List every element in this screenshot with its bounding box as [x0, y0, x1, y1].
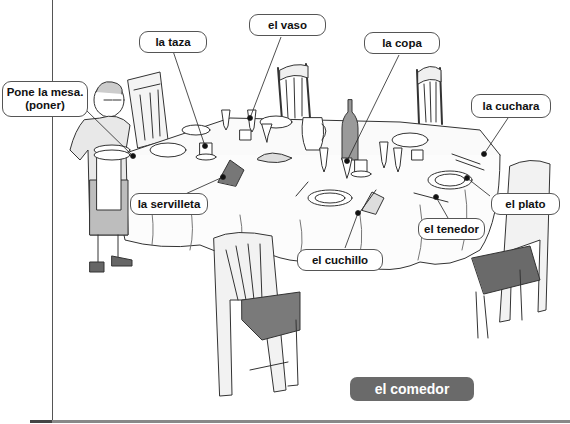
label-la-copa: la copa — [364, 32, 440, 54]
label-el-cuchillo: el cuchillo — [297, 249, 383, 271]
pitcher — [302, 118, 324, 150]
label-pone-la-mesa-line1: Pone la mesa. — [7, 86, 84, 99]
label-la-cuchara: la cuchara — [471, 94, 551, 118]
label-el-plato: el plato — [491, 193, 560, 215]
section-title-badge: el comedor — [350, 377, 474, 401]
label-el-tenedor: el tenedor — [418, 218, 485, 240]
label-la-taza: la taza — [139, 31, 207, 53]
label-la-servilleta: la servilleta — [130, 193, 208, 215]
chair-back-left — [128, 72, 168, 148]
dining-room-illustration — [0, 0, 570, 424]
chair-back-right — [417, 66, 442, 124]
wine-bottle — [342, 100, 358, 160]
label-el-vaso: el vaso — [249, 14, 326, 36]
chair-back-center — [278, 64, 310, 120]
label-pone-la-mesa: Pone la mesa. (poner) — [2, 81, 88, 117]
label-pone-la-mesa-line2: (poner) — [25, 99, 65, 112]
